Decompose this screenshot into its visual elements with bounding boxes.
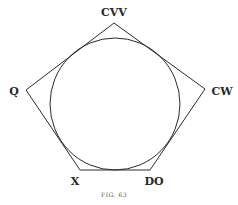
inscribed-circle [50,38,180,170]
figure-caption: FIG. 63 [101,191,127,198]
vertex-label-right: CW [211,85,233,98]
vertex-label-bottom-right: DO [144,175,164,188]
vertex-label-top: CVV [101,6,127,19]
figure-diagram: CVV Q CW X DO FIG. 63 [0,0,238,205]
pentagon-outline [26,23,205,170]
vertex-label-bottom-left: X [71,175,80,188]
vertex-label-left: Q [9,85,19,98]
